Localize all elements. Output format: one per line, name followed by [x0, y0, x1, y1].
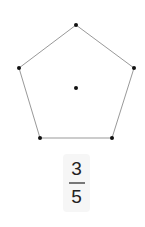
center-point: [74, 86, 78, 90]
fraction-numerator: 3: [71, 159, 82, 179]
fraction-bar: [69, 182, 85, 184]
vertex-point-left: [17, 66, 21, 70]
vertex-point-right: [132, 66, 136, 70]
vertex-point-bottom-right: [110, 136, 114, 140]
vertex-point-bottom-left: [38, 136, 42, 140]
pentagon-outline: [19, 25, 134, 138]
fraction-denominator: 5: [71, 187, 82, 207]
vertex-point-top: [74, 23, 78, 27]
fraction-card: 3 5: [63, 154, 90, 212]
pentagon-diagram: [0, 0, 145, 150]
